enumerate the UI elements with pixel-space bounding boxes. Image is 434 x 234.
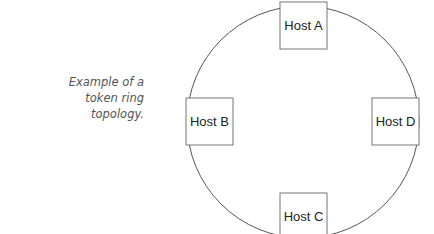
host-d-node: Host D [372, 98, 419, 145]
host-a-node: Host A [280, 2, 327, 49]
host-c-node: Host C [280, 193, 327, 234]
host-a-label: Host A [284, 18, 323, 33]
host-c-label: Host C [284, 209, 324, 224]
token-ring-diagram: Host A Host B Host C Host D [0, 0, 434, 234]
host-d-label: Host D [376, 114, 416, 129]
host-b-label: Host B [190, 114, 229, 129]
host-b-node: Host B [186, 98, 233, 145]
